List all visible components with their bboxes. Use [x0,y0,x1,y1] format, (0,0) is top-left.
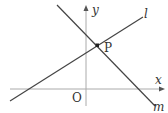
x-axis-arrow-icon [159,87,165,92]
line-m-label: m [153,100,164,113]
x-axis-label: x [155,73,162,87]
line-l-label: l [144,7,148,21]
line-l [10,17,143,101]
coordinate-diagram: y l P x O m [0,0,168,113]
y-axis-arrow-icon [84,5,89,11]
x-axis [10,87,165,92]
point-p-label: P [104,41,112,55]
intersection-point [96,44,100,48]
origin-label: O [72,91,82,105]
y-axis-label: y [91,3,99,17]
y-axis [84,5,89,106]
